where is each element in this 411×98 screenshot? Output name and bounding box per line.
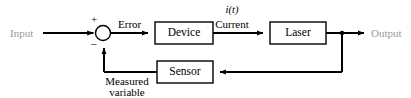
diagram-vector-layer xyxy=(0,0,411,98)
current-label: Current xyxy=(205,19,259,30)
current-symbol-label: i(t) xyxy=(207,5,257,16)
sensor-block-label: Sensor xyxy=(157,66,213,78)
summing-junction-circle xyxy=(96,26,111,41)
summing-junction-plus-sign: + xyxy=(91,14,97,25)
laser-block-label: Laser xyxy=(270,27,326,39)
input-label: Input xyxy=(10,28,33,39)
output-label: Output xyxy=(371,28,402,39)
summing-junction-minus-sign: – xyxy=(91,38,97,49)
block-diagram-canvas: Input + – Error Device i(t) Current Lase… xyxy=(0,0,411,98)
measured-variable-label-line2: variable xyxy=(99,87,155,98)
error-label: Error xyxy=(118,19,141,30)
